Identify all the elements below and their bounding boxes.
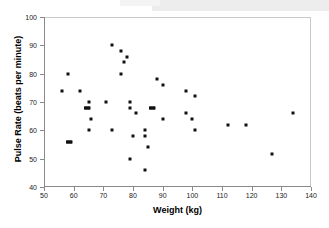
- x-tick-label-140: 140: [305, 192, 317, 199]
- data-point: [244, 123, 247, 126]
- data-point: [120, 50, 123, 53]
- data-point: [90, 118, 93, 121]
- data-point: [143, 129, 146, 132]
- x-tick-label-90: 90: [159, 192, 167, 199]
- data-point: [194, 95, 197, 98]
- x-tick-label-70: 70: [99, 192, 107, 199]
- data-point: [126, 55, 129, 58]
- y-tick-90: [40, 45, 44, 46]
- x-tick-label-110: 110: [216, 192, 227, 199]
- data-point: [111, 129, 114, 132]
- data-point-overlapping: [66, 140, 72, 143]
- x-tick-50: [44, 187, 45, 191]
- data-point: [132, 135, 135, 138]
- x-tick-label-120: 120: [246, 192, 258, 199]
- data-point: [120, 72, 123, 75]
- x-tick-label-100: 100: [186, 192, 198, 199]
- x-tick-label-50: 50: [40, 192, 48, 199]
- data-point: [66, 72, 69, 75]
- scan-artifact-band: [152, 0, 329, 11]
- y-tick-70: [40, 102, 44, 103]
- x-tick-label-130: 130: [275, 192, 287, 199]
- data-point: [111, 44, 114, 47]
- data-point: [292, 112, 295, 115]
- y-tick-60: [40, 130, 44, 131]
- x-tick-110: [222, 187, 223, 191]
- data-point: [146, 146, 149, 149]
- scan-artifact-band-secondary: [120, 0, 160, 6]
- data-point: [87, 101, 90, 104]
- y-tick-80: [40, 74, 44, 75]
- data-point: [129, 106, 132, 109]
- data-point: [191, 118, 194, 121]
- x-tick-70: [103, 187, 104, 191]
- data-point: [60, 89, 63, 92]
- x-axis-title: Weight (kg): [44, 205, 311, 215]
- data-point: [194, 129, 197, 132]
- data-point: [271, 153, 274, 156]
- x-tick-80: [133, 187, 134, 191]
- data-point: [155, 78, 158, 81]
- data-point: [226, 123, 229, 126]
- x-tick-label-60: 60: [70, 192, 78, 199]
- data-point: [134, 112, 137, 115]
- data-point: [129, 157, 132, 160]
- data-point-overlapping: [84, 106, 90, 109]
- x-tick-130: [281, 187, 282, 191]
- data-point: [87, 129, 90, 132]
- x-tick-140: [311, 187, 312, 191]
- data-point: [78, 89, 81, 92]
- x-tick-90: [163, 187, 164, 191]
- x-tick-60: [74, 187, 75, 191]
- data-point: [185, 112, 188, 115]
- data-point: [143, 135, 146, 138]
- data-point: [123, 61, 126, 64]
- plot-area: [44, 17, 311, 187]
- data-point: [105, 101, 108, 104]
- scatter-plot-figure: 5060708090100110120130140 40506070809010…: [0, 0, 329, 228]
- y-tick-40: [40, 187, 44, 188]
- y-tick-50: [40, 159, 44, 160]
- x-tick-100: [192, 187, 193, 191]
- y-tick-100: [40, 17, 44, 18]
- x-tick-label-80: 80: [129, 192, 137, 199]
- data-point: [185, 89, 188, 92]
- x-tick-120: [252, 187, 253, 191]
- data-point: [161, 118, 164, 121]
- y-axis-title: Pulse Rate (beats per minute): [13, 9, 23, 189]
- data-point: [129, 101, 132, 104]
- data-point: [161, 84, 164, 87]
- data-point: [143, 169, 146, 172]
- data-point-overlapping: [149, 106, 155, 109]
